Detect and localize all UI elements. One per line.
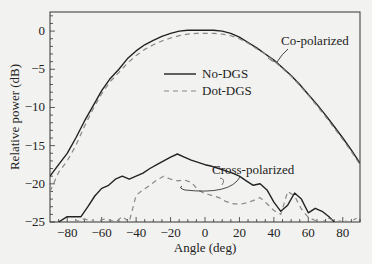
y-tick-label: −20 <box>25 176 45 191</box>
x-tick-label: 20 <box>233 225 246 240</box>
series-dot-dgs-cross-polarized <box>74 176 357 222</box>
legend-label-dot-dgs: Dot-DGS <box>202 83 252 98</box>
x-tick-label: −20 <box>160 225 180 240</box>
y-tick-label: 0 <box>39 23 46 38</box>
x-tick-label: 80 <box>336 225 349 240</box>
x-tick-label: 60 <box>302 225 315 240</box>
x-tick-label: −80 <box>57 225 77 240</box>
cross-polarized-pointer-hook <box>220 178 224 185</box>
plot-series <box>50 30 360 222</box>
legend-label-no-dgs: No-DGS <box>202 66 248 81</box>
annotation-co-polarized: Co-polarized <box>281 33 349 48</box>
y-axis-label: Relative power (dB) <box>7 64 22 170</box>
x-tick-label: 40 <box>267 225 280 240</box>
x-axis-label: Angle (deg) <box>174 240 236 255</box>
y-tick-label: −5 <box>31 61 45 76</box>
annotation-cross-polarized: Cross-polarized <box>212 162 295 177</box>
x-tick-label: 0 <box>202 225 209 240</box>
radiation-pattern-chart: −80−60−40−200204060800−5−10−15−20−25 No-… <box>0 0 372 264</box>
co-polarized-pointer <box>277 49 288 62</box>
series-dot-dgs-co-polarized <box>50 33 360 191</box>
cross-polarized-pointer <box>181 177 240 191</box>
y-tick-label: −25 <box>25 214 45 229</box>
y-tick-label: −15 <box>25 138 45 153</box>
y-tick-label: −10 <box>25 99 45 114</box>
x-tick-label: −60 <box>91 225 111 240</box>
annotations: Co-polarized Cross-polarized <box>181 33 350 191</box>
x-tick-label: −40 <box>126 225 146 240</box>
legend: No-DGS Dot-DGS <box>164 66 252 98</box>
